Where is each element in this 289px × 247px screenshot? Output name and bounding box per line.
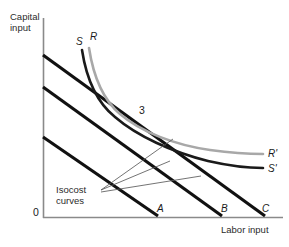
isocost-endpoint-label-c: C (262, 203, 269, 214)
curve-label-r: R (90, 31, 97, 42)
curve-label-r-prime: R' (268, 148, 277, 159)
isoquant-curve-s (82, 50, 263, 168)
origin-label: 0 (33, 207, 39, 218)
tangency-point-label: 3 (139, 105, 145, 116)
isoquant-isocost-figure: Capital input Labor input 0 S R R' S' 3 … (0, 0, 289, 247)
isocost-curves-annotation: Isocost curves (56, 184, 86, 206)
x-axis-title: Labor input (221, 224, 269, 235)
plot-canvas (0, 0, 289, 247)
isocost-endpoint-label-b: B (221, 203, 228, 214)
curve-label-s: S (76, 36, 83, 47)
curve-label-s-prime: S' (268, 163, 277, 174)
y-axis-title: Capital input (10, 11, 40, 33)
isocost-endpoint-label-a: A (157, 203, 164, 214)
